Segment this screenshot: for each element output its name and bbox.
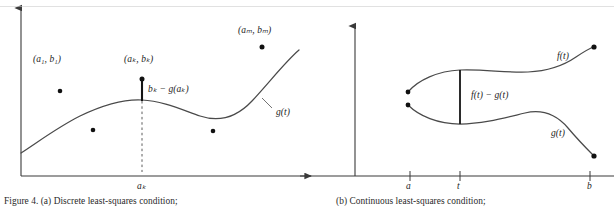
panel-b-label-curve-f: f(t)	[557, 51, 569, 61]
panel-a-data-point-2	[91, 128, 96, 133]
panel-b-tick-label-a: a	[406, 181, 411, 191]
panel-a-curve-leader	[262, 98, 272, 108]
panel-b-tick-label-t: t	[457, 181, 460, 191]
panel-a-data-point-k	[140, 77, 145, 82]
panel-b-label-difference: f(t) − g(t)	[471, 90, 509, 100]
panel-b-curve-g	[408, 105, 594, 156]
panel-b-g-right-endpoint	[591, 153, 596, 158]
panel-b-f-right-endpoint	[591, 44, 596, 49]
panel-a-label-point-m: (aₘ, bₘ)	[238, 24, 271, 35]
caption-panel-b: (b) Continuous least-squares condition;	[336, 196, 486, 206]
panel-b-f-left-endpoint	[406, 90, 411, 95]
panel-b-label-curve-g: g(t)	[551, 128, 565, 138]
figure-drawing	[0, 0, 614, 206]
panel-a-curve-g	[21, 50, 299, 153]
panel-a-data-point-4	[211, 129, 216, 134]
panel-b-tick-label-b: b	[587, 181, 592, 191]
panel-b-axes	[300, 26, 614, 176]
caption-panel-a: Figure 4. (a) Discrete least-squares con…	[4, 196, 178, 206]
panel-b-g-left-endpoint	[406, 103, 411, 108]
figure-container: (a₁, b₁) (aₖ, bₖ) (aₘ, bₘ) bₖ − g(aₖ) g(…	[0, 0, 614, 206]
panel-a-data-point-m	[260, 45, 265, 50]
panel-a-label-point-k: (aₖ, bₖ)	[124, 53, 153, 64]
scan-artifact-line	[0, 6, 614, 7]
panel-a-data-point-1	[58, 89, 63, 94]
panel-a-label-point-1: (a₁, b₁)	[33, 54, 61, 64]
panel-a-label-residual: bₖ − g(aₖ)	[148, 83, 189, 94]
panel-a-tick-label-ak: aₖ	[137, 180, 146, 191]
panel-a-label-curve-g: g(t)	[276, 107, 290, 117]
